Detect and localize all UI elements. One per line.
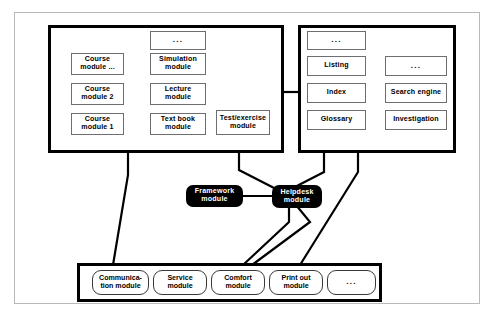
framework-module[interactable]: Framework module [186,185,243,207]
service-module-placeholder[interactable]: ... [327,270,376,295]
communication-module[interactable]: Communica- tion module [92,270,149,295]
text-book-module[interactable]: Text book module [150,113,206,135]
listing-module[interactable]: Listing [307,56,366,76]
glossary-module[interactable]: Glossary [307,110,366,130]
lecture-module[interactable]: Lecture module [150,83,206,105]
course-module-2[interactable]: Course module 2 [71,83,124,105]
comfort-module[interactable]: Comfort module [211,270,265,295]
course-module-1[interactable]: Course module 1 [71,113,124,135]
reference-right-placeholder[interactable]: ... [385,56,447,76]
test-exercise-module[interactable]: Test/exercise module [216,110,270,135]
diagram-canvas: Course module ... Course module 2 Course… [0,0,496,330]
reference-left-placeholder[interactable]: ... [307,31,366,50]
print-out-module[interactable]: Print out module [269,270,323,295]
course-module-n[interactable]: Course module ... [71,53,124,75]
investigation-module[interactable]: Investigation [385,110,447,130]
index-module[interactable]: Index [307,83,366,103]
search-engine-module[interactable]: Search engine [385,83,447,103]
service-module[interactable]: Service module [153,270,207,295]
helpdesk-module[interactable]: Helpdesk module [272,185,322,208]
content-module-placeholder[interactable]: ... [150,31,206,50]
simulation-module[interactable]: Simulation module [150,53,206,75]
